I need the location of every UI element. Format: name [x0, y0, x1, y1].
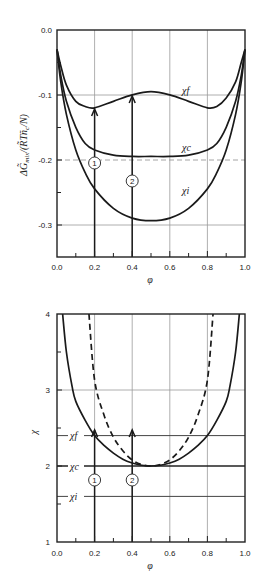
- free-energy-chart: 1 2 χf χc χi: [17, 26, 251, 285]
- top-marker-1: 1: [89, 157, 101, 169]
- svg-text:0.8: 0.8: [202, 549, 214, 558]
- svg-text:χi: χi: [69, 491, 77, 502]
- svg-text:1: 1: [92, 476, 97, 485]
- svg-text:0.0: 0.0: [51, 263, 63, 272]
- svg-text:0.2: 0.2: [89, 263, 101, 272]
- svg-text:0.0: 0.0: [51, 549, 63, 558]
- svg-text:2: 2: [46, 462, 51, 471]
- phase-diagram-chart: χf χc χi 1 2: [28, 310, 251, 571]
- curve-c: [57, 49, 245, 156]
- curve-label-chi-c: χc: [181, 142, 191, 153]
- svg-text:χc: χc: [69, 461, 79, 472]
- bottom-y-tick-labels: 4 3 2 1: [46, 310, 51, 547]
- svg-text:2: 2: [130, 177, 135, 186]
- svg-text:1.0: 1.0: [239, 549, 251, 558]
- svg-text:0.6: 0.6: [164, 549, 176, 558]
- svg-text:ΔG̃mix/(R̃Tñc/N): ΔG̃mix/(R̃Tñc/N): [17, 113, 31, 177]
- svg-text:0.4: 0.4: [127, 263, 139, 272]
- top-curves: [57, 49, 245, 220]
- svg-text:1: 1: [46, 538, 51, 547]
- svg-text:0.8: 0.8: [202, 263, 214, 272]
- figure: 1 2 χf χc χi: [0, 0, 266, 588]
- bottom-x-tick-labels: 0.0 0.2 0.4 0.6 0.8 1.0: [51, 549, 251, 558]
- svg-text:2: 2: [130, 476, 135, 485]
- bottom-marker-1: 1: [89, 474, 101, 486]
- bottom-marker-2: 2: [126, 474, 138, 486]
- svg-text:-0.1: -0.1: [38, 91, 52, 100]
- svg-text:-0.2: -0.2: [38, 156, 52, 165]
- level-label-chi-f: χf: [68, 427, 84, 441]
- svg-text:0.4: 0.4: [127, 549, 139, 558]
- top-arrow-1: [92, 109, 98, 257]
- top-y-tick-labels: 0.0 -0.1 -0.2 -0.3: [38, 26, 52, 230]
- top-x-tick-labels: 0.0 0.2 0.4 0.6 0.8 1.0: [51, 263, 251, 272]
- bottom-gridlines: [57, 314, 245, 542]
- svg-text:3: 3: [46, 386, 51, 395]
- curve-f: [57, 49, 245, 108]
- svg-text:0.2: 0.2: [89, 549, 101, 558]
- top-x-axis-label: φ: [147, 274, 153, 285]
- curve-i: [57, 49, 245, 220]
- curve-label-chi-i: χi: [181, 185, 189, 196]
- svg-text:0.6: 0.6: [164, 263, 176, 272]
- svg-text:4: 4: [46, 310, 51, 319]
- svg-text:1.0: 1.0: [239, 263, 251, 272]
- top-marker-2: 2: [126, 175, 138, 187]
- svg-text:χf: χf: [69, 430, 78, 441]
- level-label-chi-c: χc: [68, 458, 84, 472]
- top-y-axis-label: ΔG̃mix/(R̃Tñc/N): [17, 113, 31, 177]
- bottom-plot-frame: [57, 314, 245, 542]
- svg-text:-0.3: -0.3: [38, 221, 52, 230]
- bottom-y-axis-label: χ: [28, 429, 39, 435]
- level-label-chi-i: χi: [68, 488, 84, 502]
- curve-label-chi-f: χf: [181, 85, 190, 96]
- bottom-x-axis-label: φ: [147, 560, 153, 571]
- svg-text:χ: χ: [28, 429, 39, 435]
- bottom-ticks: [57, 352, 226, 542]
- svg-text:0.0: 0.0: [41, 26, 53, 35]
- svg-text:1: 1: [92, 159, 97, 168]
